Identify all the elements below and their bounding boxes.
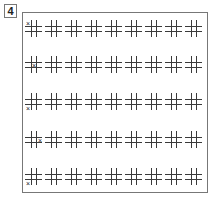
- grid-line: [136, 93, 137, 110]
- tic-tac-toe-grid[interactable]: ×: [25, 20, 42, 37]
- puzzle-row: ×: [23, 20, 207, 38]
- grid-line: [145, 31, 162, 32]
- tic-tac-toe-grid[interactable]: [125, 56, 142, 73]
- tic-tac-toe-grid[interactable]: [185, 168, 202, 185]
- grid-line: [171, 131, 172, 148]
- grid-line: [65, 99, 82, 100]
- tic-tac-toe-grid[interactable]: [85, 93, 102, 110]
- tic-tac-toe-grid[interactable]: [45, 168, 62, 185]
- grid-line: [171, 93, 172, 110]
- grid-line: [45, 104, 62, 105]
- tic-tac-toe-grid[interactable]: [145, 93, 162, 110]
- grid-line: [45, 62, 62, 63]
- grid-line: [45, 31, 62, 32]
- tic-tac-toe-grid[interactable]: [145, 131, 162, 148]
- tic-tac-toe-grid[interactable]: [105, 20, 122, 37]
- grid-line: [131, 168, 132, 185]
- tic-tac-toe-grid[interactable]: [65, 131, 82, 148]
- grid-line: [165, 104, 182, 105]
- tic-tac-toe-grid[interactable]: [185, 131, 202, 148]
- tic-tac-toe-grid[interactable]: ×: [25, 168, 42, 185]
- grid-line: [45, 99, 62, 100]
- tic-tac-toe-grid[interactable]: [165, 20, 182, 37]
- tic-tac-toe-grid[interactable]: [85, 168, 102, 185]
- grid-line: [165, 31, 182, 32]
- grid-line: [136, 168, 137, 185]
- grid-line: [125, 67, 142, 68]
- tic-tac-toe-grid[interactable]: [65, 20, 82, 37]
- grid-line: [151, 131, 152, 148]
- grid-line: [65, 174, 82, 175]
- puzzle-row: ×: [23, 56, 207, 74]
- grid-line: [56, 168, 57, 185]
- grid-line: [51, 168, 52, 185]
- grid-line: [165, 179, 182, 180]
- grid-line: [176, 56, 177, 73]
- tic-tac-toe-grid[interactable]: [65, 93, 82, 110]
- tic-tac-toe-grid[interactable]: [165, 93, 182, 110]
- tic-tac-toe-grid[interactable]: [185, 56, 202, 73]
- tic-tac-toe-grid[interactable]: [105, 93, 122, 110]
- grid-line: [65, 104, 82, 105]
- tic-tac-toe-grid[interactable]: [125, 168, 142, 185]
- tic-tac-toe-grid[interactable]: [165, 168, 182, 185]
- grid-line: [56, 131, 57, 148]
- grid-line: [151, 56, 152, 73]
- grid-line: [165, 67, 182, 68]
- tic-tac-toe-grid[interactable]: [85, 20, 102, 37]
- grid-line: [51, 56, 52, 73]
- grid-line: [71, 93, 72, 110]
- grid-line: [105, 99, 122, 100]
- grid-line: [76, 93, 77, 110]
- x-mark-icon: ×: [25, 180, 31, 186]
- grid-line: [105, 104, 122, 105]
- grid-line: [91, 93, 92, 110]
- grid-line: [85, 137, 102, 138]
- tic-tac-toe-grid[interactable]: [45, 20, 62, 37]
- tic-tac-toe-grid[interactable]: [105, 168, 122, 185]
- grid-line: [56, 93, 57, 110]
- grid-line: [145, 137, 162, 138]
- grid-line: [31, 93, 32, 110]
- tic-tac-toe-grid[interactable]: [125, 131, 142, 148]
- tic-tac-toe-grid[interactable]: [85, 56, 102, 73]
- grid-line: [65, 67, 82, 68]
- grid-line: [76, 131, 77, 148]
- grid-line: [71, 20, 72, 37]
- tic-tac-toe-grid[interactable]: [105, 131, 122, 148]
- puzzle-frame: ×××××: [22, 12, 208, 193]
- tic-tac-toe-grid[interactable]: [105, 56, 122, 73]
- tic-tac-toe-grid[interactable]: [185, 93, 202, 110]
- grid-line: [191, 20, 192, 37]
- grid-line: [76, 168, 77, 185]
- tic-tac-toe-grid[interactable]: ×: [25, 56, 42, 73]
- puzzle-row: ×: [23, 131, 207, 149]
- tic-tac-toe-grid[interactable]: [65, 56, 82, 73]
- tic-tac-toe-grid[interactable]: [45, 131, 62, 148]
- grid-line: [176, 168, 177, 185]
- tic-tac-toe-grid[interactable]: [145, 56, 162, 73]
- grid-line: [185, 142, 202, 143]
- tic-tac-toe-grid[interactable]: [145, 168, 162, 185]
- x-mark-icon: ×: [31, 62, 37, 68]
- grid-line: [51, 20, 52, 37]
- tic-tac-toe-grid[interactable]: [125, 93, 142, 110]
- tic-tac-toe-grid[interactable]: [185, 20, 202, 37]
- tic-tac-toe-grid[interactable]: [145, 20, 162, 37]
- grid-line: [196, 93, 197, 110]
- tic-tac-toe-grid[interactable]: [65, 168, 82, 185]
- tic-tac-toe-grid[interactable]: [165, 56, 182, 73]
- tic-tac-toe-grid[interactable]: [165, 131, 182, 148]
- grid-line: [85, 179, 102, 180]
- tic-tac-toe-grid[interactable]: [125, 20, 142, 37]
- tic-tac-toe-grid[interactable]: [45, 93, 62, 110]
- tic-tac-toe-grid[interactable]: [45, 56, 62, 73]
- grid-line: [165, 174, 182, 175]
- tic-tac-toe-grid[interactable]: ×: [25, 131, 42, 148]
- tic-tac-toe-grid[interactable]: ×: [25, 93, 42, 110]
- grid-line: [185, 137, 202, 138]
- tic-tac-toe-grid[interactable]: [85, 131, 102, 148]
- grid-line: [25, 99, 42, 100]
- grid-line: [85, 26, 102, 27]
- grid-line: [65, 137, 82, 138]
